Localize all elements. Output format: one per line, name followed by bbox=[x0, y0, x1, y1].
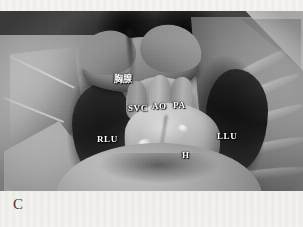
panel-letter: C bbox=[13, 197, 23, 212]
figure-panel-c: 胸腺 SVC AO PA RLU LLU H C bbox=[0, 0, 303, 227]
diaphragm-shadow bbox=[100, 153, 218, 183]
anatomical-photograph: 胸腺 SVC AO PA RLU LLU H bbox=[0, 11, 303, 191]
